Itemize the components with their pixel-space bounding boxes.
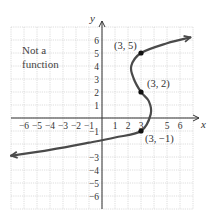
svg-text:3: 3 (94, 75, 99, 85)
svg-text:(3, −1): (3, −1) (145, 133, 174, 145)
svg-text:−5: −5 (32, 121, 42, 131)
svg-text:−6: −6 (19, 121, 29, 131)
svg-text:5: 5 (94, 49, 99, 59)
svg-text:−4: −4 (45, 121, 55, 131)
graph: −6−5−4−3−2−112356654321−1−3−4−5−6 (3, 5)… (0, 0, 219, 217)
svg-text:5: 5 (165, 121, 170, 131)
svg-text:2: 2 (94, 88, 99, 98)
y-axis-label: y (89, 12, 95, 24)
svg-text:(3, 5): (3, 5) (114, 40, 137, 52)
svg-text:2: 2 (126, 121, 131, 131)
annotation-line-2: function (22, 58, 59, 70)
svg-text:6: 6 (94, 36, 99, 46)
svg-text:−5: −5 (89, 179, 99, 189)
svg-text:−3: −3 (58, 121, 68, 131)
svg-text:−6: −6 (89, 192, 99, 202)
svg-text:6: 6 (178, 121, 183, 131)
svg-text:1: 1 (113, 121, 118, 131)
annotation-line-1: Not a (22, 44, 46, 56)
x-axis-label: x (200, 118, 206, 130)
svg-text:4: 4 (94, 62, 99, 72)
svg-text:−2: −2 (71, 121, 81, 131)
svg-text:(3, 2): (3, 2) (147, 78, 170, 90)
svg-text:−3: −3 (89, 153, 99, 163)
svg-text:1: 1 (94, 101, 99, 111)
svg-text:−4: −4 (89, 166, 99, 176)
svg-text:−1: −1 (89, 127, 99, 137)
